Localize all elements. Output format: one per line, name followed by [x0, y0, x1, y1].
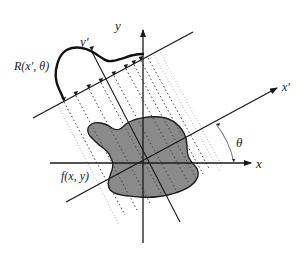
angle-arc — [216, 123, 235, 163]
y-axis-label: y — [113, 18, 121, 33]
ray-arrowheads — [62, 46, 144, 102]
x-axis-label: x — [255, 156, 262, 171]
projection-curve — [56, 47, 143, 98]
object-label: f(x, y) — [61, 169, 89, 183]
diagram-svg: y x x′ y′ R(x′, θ) f(x, y) θ — [0, 0, 305, 256]
radon-diagram: y x x′ y′ R(x′, θ) f(x, y) θ — [0, 0, 305, 256]
projection-label: R(x′, θ) — [13, 59, 49, 73]
x-prime-axis-label: x′ — [281, 80, 290, 94]
angle-label: θ — [236, 135, 243, 150]
y-prime-axis-label: y′ — [78, 34, 89, 49]
